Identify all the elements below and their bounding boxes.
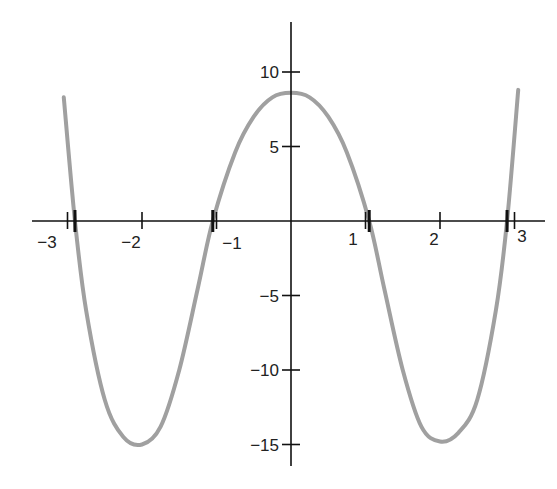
y-tick-label: 5: [270, 138, 279, 157]
x-tick-label: 1: [348, 230, 357, 249]
y-tick-label: −5: [260, 287, 279, 306]
x-tick-label: 2: [429, 230, 438, 249]
y-tick-label: −15: [250, 436, 279, 455]
x-tick-label: −2: [121, 233, 140, 252]
x-tick-label: 3: [517, 227, 526, 246]
axes: [32, 22, 545, 466]
y-tick-label: 10: [260, 63, 279, 82]
x-tick-label: −1: [222, 234, 241, 253]
x-tick-label: −3: [37, 233, 56, 252]
chart: −3−2−1123105−5−10−15: [0, 0, 557, 489]
tick-labels: −3−2−1123105−5−10−15: [37, 63, 526, 455]
y-tick-label: −10: [250, 361, 279, 380]
